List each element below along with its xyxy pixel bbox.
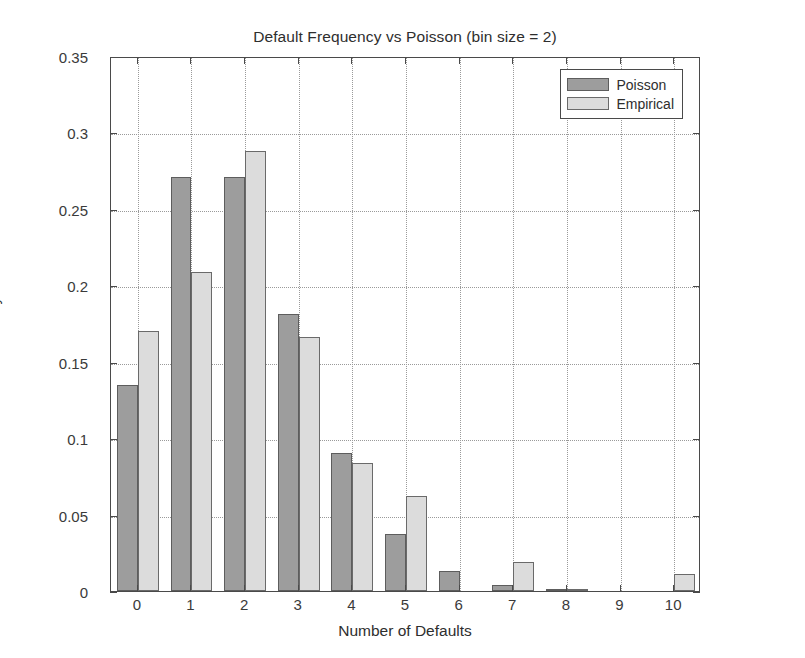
x-axis-tick: [405, 57, 406, 64]
legend-item-poisson: Poisson: [567, 75, 674, 94]
y-axis-tick-label: 0.15: [59, 354, 88, 371]
y-axis-tick: [110, 592, 117, 593]
bar-empirical-0: [138, 331, 159, 591]
x-axis-tick: [190, 57, 191, 64]
x-axis-tick-label: 9: [615, 596, 623, 613]
x-axis-tick: [620, 585, 621, 592]
y-axis-title: Probability: [0, 297, 3, 369]
bar-empirical-8: [567, 589, 588, 591]
x-axis-tick: [244, 585, 245, 592]
chart-legend: Poisson Empirical: [560, 69, 683, 119]
x-axis-tick: [298, 585, 299, 592]
y-axis-tick-label: 0: [80, 584, 88, 601]
x-axis-tick: [351, 585, 352, 592]
x-axis-tick: [459, 585, 460, 592]
y-axis-tick: [110, 286, 117, 287]
x-axis-tick-label: 8: [562, 596, 570, 613]
bar-empirical-1: [191, 272, 212, 591]
x-axis-tick-label: 1: [186, 596, 194, 613]
x-axis-tick: [673, 57, 674, 64]
y-axis-tick: [110, 57, 117, 58]
y-axis-tick: [110, 516, 117, 517]
y-axis-tick: [693, 210, 700, 211]
y-axis-tick: [110, 439, 117, 440]
x-axis-tick: [244, 57, 245, 64]
bar-empirical-5: [406, 496, 427, 591]
x-axis-tick-label: 6: [454, 596, 462, 613]
y-axis-tick: [110, 133, 117, 134]
legend-swatch-poisson-icon: [567, 78, 609, 91]
gridline-horizontal: [111, 211, 699, 212]
x-axis-tick: [459, 57, 460, 64]
x-axis-title: Number of Defaults: [110, 622, 700, 640]
gridline-vertical: [513, 58, 514, 591]
bar-poisson-7: [492, 585, 513, 591]
y-axis-tick: [693, 57, 700, 58]
bar-poisson-1: [171, 177, 192, 591]
y-axis-tick: [693, 439, 700, 440]
x-axis-tick: [137, 57, 138, 64]
y-axis-tick-label: 0.2: [67, 278, 88, 295]
x-axis-tick: [190, 585, 191, 592]
x-axis-tick-label: 3: [294, 596, 302, 613]
y-axis-tick: [693, 516, 700, 517]
y-axis-tick: [110, 210, 117, 211]
x-axis-tick-label: 4: [347, 596, 355, 613]
bar-empirical-7: [513, 562, 534, 591]
bar-empirical-2: [245, 151, 266, 591]
gridline-vertical: [567, 58, 568, 591]
x-axis-tick: [351, 57, 352, 64]
x-axis-tick-label: 10: [665, 596, 682, 613]
bar-empirical-3: [299, 337, 320, 591]
y-axis-tick: [693, 363, 700, 364]
plot-area: [110, 57, 700, 592]
y-axis-tick: [693, 133, 700, 134]
chart-figure: Default Frequency vs Poisson (bin size =…: [0, 0, 805, 658]
legend-label-poisson: Poisson: [616, 78, 666, 92]
x-axis-tick: [512, 585, 513, 592]
legend-swatch-empirical-icon: [567, 97, 609, 110]
gridline-vertical: [674, 58, 675, 591]
x-axis-tick: [620, 57, 621, 64]
bar-empirical-4: [352, 463, 373, 591]
x-axis-tick: [673, 585, 674, 592]
y-axis-tick-label: 0.3: [67, 125, 88, 142]
chart-title: Default Frequency vs Poisson (bin size =…: [110, 28, 700, 46]
y-axis-tick-label: 0.1: [67, 431, 88, 448]
x-axis-tick-label: 2: [240, 596, 248, 613]
x-axis-tick: [566, 57, 567, 64]
y-axis-tick: [693, 592, 700, 593]
x-axis-tick-label: 7: [508, 596, 516, 613]
x-axis-tick: [137, 585, 138, 592]
bar-poisson-0: [117, 385, 138, 591]
y-axis-tick-label: 0.35: [59, 49, 88, 66]
x-axis-tick-label: 5: [401, 596, 409, 613]
bar-poisson-2: [224, 177, 245, 591]
gridline-horizontal: [111, 134, 699, 135]
gridline-vertical: [460, 58, 461, 591]
y-axis-tick: [110, 363, 117, 364]
legend-label-empirical: Empirical: [616, 97, 674, 111]
y-axis-tick: [693, 286, 700, 287]
x-axis-tick-label: 0: [133, 596, 141, 613]
legend-item-empirical: Empirical: [567, 94, 674, 113]
x-axis-tick: [512, 57, 513, 64]
gridline-vertical: [621, 58, 622, 591]
bar-poisson-8: [546, 589, 567, 591]
bar-poisson-4: [331, 453, 352, 591]
x-axis-tick: [298, 57, 299, 64]
bar-poisson-3: [278, 314, 299, 591]
bar-poisson-6: [439, 571, 460, 591]
bar-empirical-10: [674, 574, 695, 591]
x-axis-tick: [566, 585, 567, 592]
bar-poisson-5: [385, 534, 406, 591]
y-axis-tick-label: 0.05: [59, 507, 88, 524]
y-axis-tick-label: 0.25: [59, 201, 88, 218]
x-axis-tick: [405, 585, 406, 592]
